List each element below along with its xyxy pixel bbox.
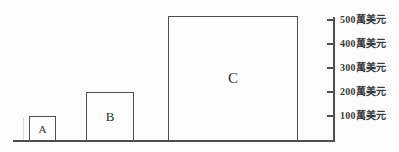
bar-b: B (86, 92, 134, 141)
y-axis-tick-500 (327, 19, 333, 21)
bar-c: C (168, 16, 298, 141)
scan-artifact-mark (23, 118, 24, 141)
bar-a: A (29, 116, 56, 141)
y-tick-label-500: 500萬美元 (340, 13, 386, 26)
y-axis-line (333, 17, 335, 141)
y-tick-label-400: 400萬美元 (340, 37, 386, 50)
y-axis-tick-100 (327, 115, 333, 117)
y-axis-tick-400 (327, 43, 333, 45)
y-tick-label-300: 300萬美元 (340, 61, 386, 74)
y-axis-tick-300 (327, 67, 333, 69)
bar-a-label: A (39, 123, 47, 135)
bar-b-label: B (106, 109, 115, 125)
y-tick-label-200: 200萬美元 (340, 85, 386, 98)
y-axis-tick-200 (327, 91, 333, 93)
bar-c-label: C (228, 70, 238, 87)
bar-chart-figure: 500萬美元 400萬美元 300萬美元 200萬美元 100萬美元 A B C (0, 0, 399, 152)
y-tick-label-100: 100萬美元 (340, 109, 386, 122)
